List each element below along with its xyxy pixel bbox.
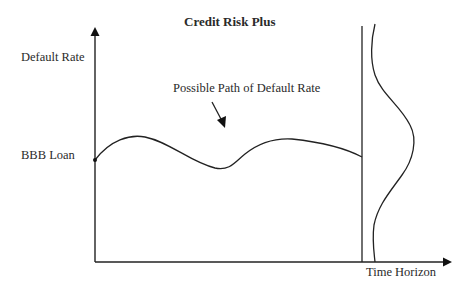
start-point-dot (93, 158, 97, 162)
diagram-canvas (0, 0, 472, 295)
x-axis-arrow-icon (443, 258, 452, 267)
annotation-arrow-icon (212, 102, 226, 128)
default-rate-path (95, 136, 362, 168)
y-axis-arrow-icon (91, 27, 100, 36)
y-axis (91, 27, 100, 262)
default-distribution-curve (372, 24, 414, 262)
x-axis (95, 258, 452, 267)
